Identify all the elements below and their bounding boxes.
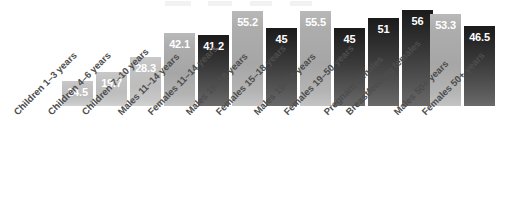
- bar-value-label: 51: [368, 24, 399, 35]
- bar-value-label: 46.5: [464, 32, 495, 43]
- bar-chart: 14.5 19.7 28.3 42.1 41.2 55.2: [0, 0, 512, 203]
- bar-value-label: 53.3: [430, 20, 461, 31]
- category-axis: Children 1–3 years Children 4–6 years Ch…: [0, 106, 512, 203]
- bar-value-label: 56: [402, 16, 433, 27]
- bar-value-label: 42.1: [164, 39, 195, 50]
- bar-value-label: 55.5: [300, 17, 331, 28]
- bar-value-label: 55.2: [232, 17, 263, 28]
